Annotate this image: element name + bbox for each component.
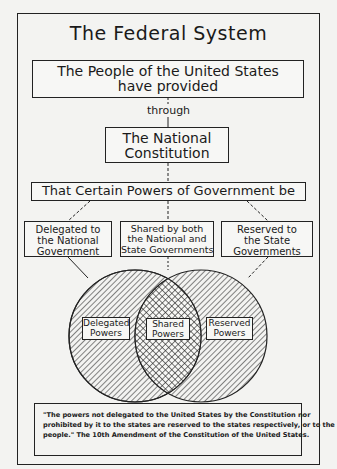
people-box-line1: The People of the United States — [33, 64, 303, 79]
constitution-line1: The National — [106, 131, 228, 146]
people-box: The People of the United States have pro… — [32, 60, 304, 98]
venn-label-line: Powers — [147, 330, 189, 340]
branch-line: Governments — [222, 246, 312, 257]
constitution-line2: Constitution — [106, 146, 228, 161]
venn-label-line: Powers — [83, 329, 129, 339]
through-label: through — [0, 104, 337, 117]
diagram-title: The Federal System — [17, 22, 320, 44]
people-box-line2: have provided — [33, 79, 303, 94]
reserved-powers-label: Reserved Powers — [206, 317, 253, 340]
branch-line: the State — [222, 235, 312, 246]
quote-line: prohibited by it to the states are reser… — [43, 420, 293, 430]
branch-line: Government — [25, 246, 111, 257]
branch-line: State Governments — [121, 245, 213, 255]
shared-branch-box: Shared by both the National and State Go… — [120, 221, 214, 257]
tenth-amendment-quote: "The powers not delegated to the United … — [34, 403, 302, 456]
powers-box: That Certain Powers of Government be — [31, 182, 306, 201]
constitution-box: The National Constitution — [105, 127, 229, 163]
branch-line: Delegated to — [25, 224, 111, 235]
shared-powers-label: Shared Powers — [146, 318, 190, 340]
delegated-branch-box: Delegated to the National Government — [24, 221, 112, 257]
reserved-branch-box: Reserved to the State Governments — [221, 221, 313, 257]
branch-line: the National — [25, 235, 111, 246]
delegated-powers-label: Delegated Powers — [82, 317, 130, 340]
quote-line: people." The 10th Amendment of the Const… — [43, 430, 293, 440]
branch-line: Reserved to — [222, 224, 312, 235]
venn-label-line: Powers — [207, 329, 252, 339]
quote-line: "The powers not delegated to the United … — [43, 410, 293, 420]
